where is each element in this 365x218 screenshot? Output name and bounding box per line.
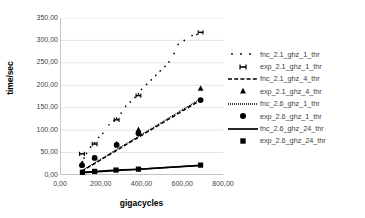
data-point [108,124,110,126]
legend-key-icon [228,73,258,85]
legend-item-label: fnc_2.6_ghz_24_thr [258,124,324,133]
legend-key-icon [228,123,258,135]
legend-item-label: exp_2.1_ghz_4_thr [258,87,322,96]
data-point [86,153,88,155]
plot-svg [60,18,223,175]
x-tick-label: 400,00 [122,180,162,187]
legend-square-marker [240,138,245,143]
data-point [198,85,204,90]
data-point [125,106,127,108]
legend-item-label: exp_2.6_ghz_1_thr [258,112,322,121]
data-point [155,75,157,77]
data-point [92,169,97,174]
data-point [120,112,122,114]
legend-dot-marker [249,53,251,55]
legend-triangle-marker [240,88,246,94]
legend-key-icon [228,110,258,122]
data-point [136,130,142,136]
data-point [146,84,148,86]
data-point [164,66,166,68]
series-line [82,165,200,172]
data-point [113,167,118,172]
legend-key-icon [228,85,258,97]
data-point [198,97,204,103]
plot-area [60,18,223,175]
legend-item[interactable]: fnc_2.1_ghz_1_thr [228,48,365,60]
data-point [116,117,118,119]
data-point [129,101,131,103]
series-fnc_2.1_ghz_1_thr [81,34,198,166]
data-point [159,70,161,72]
legend-key-icon [228,48,258,60]
data-point [80,170,85,175]
data-point [94,142,96,144]
data-point [141,88,143,90]
legend-item-label: fnc_2.1_ghz_1_thr [258,50,320,59]
series-line [81,99,200,171]
data-point [177,44,179,46]
legend-key-icon [228,135,258,147]
x-tick-label: 800,00 [203,180,243,187]
data-point [90,146,92,148]
legend-item[interactable]: exp_2.1_ghz_1_thr [228,60,365,72]
data-point [114,142,120,148]
legend-item-label: fnc_2.6_ghz_1_thr [258,99,320,108]
legend-item-label: exp_2.6_ghz_24_thr [258,136,326,145]
legend-item-label: fnc_2.1_ghz_4_thr [258,74,320,83]
legend-key-icon [228,98,258,110]
data-point [183,40,185,42]
legend-item[interactable]: fnc_2.6_ghz_1_thr [228,98,365,110]
data-point [92,155,98,161]
data-point [79,162,85,168]
x-tick-label: 600,00 [162,180,202,187]
legend-item[interactable]: fnc_2.6_ghz_24_thr [228,122,365,134]
legend-item[interactable]: exp_2.1_ghz_4_thr [228,85,365,97]
legend-item[interactable]: exp_2.6_ghz_1_thr [228,110,365,122]
legend-item[interactable]: fnc_2.1_ghz_4_thr [228,73,365,85]
series-exp_2.6_ghz_24_thr [80,163,203,175]
data-point [150,79,152,81]
legend-key-icon [228,61,258,73]
data-point [198,163,203,168]
legend-dot-marker [231,53,233,55]
legend: fnc_2.1_ghz_1_threxp_2.1_ghz_1_thrfnc_2.… [228,48,365,147]
legend-circle-marker [240,113,246,119]
data-point [191,35,193,37]
data-point [138,93,140,95]
legend-dot-marker [240,53,242,55]
data-point [98,136,100,138]
data-point [102,132,104,134]
x-tick-label: 200,00 [81,180,121,187]
chart-container: time/sec gigacycles 0,0050,00100,00150,0… [0,0,365,218]
data-point [168,61,170,63]
x-tick-label: 0,00 [40,180,80,187]
data-point [136,167,141,172]
legend-item-label: exp_2.1_ghz_1_thr [258,62,322,71]
legend-item[interactable]: exp_2.6_ghz_24_thr [228,135,365,147]
data-point [83,157,85,159]
data-point [173,53,175,55]
series-fnc_2.6_ghz_1_thr [81,99,200,171]
data-point [196,34,198,36]
